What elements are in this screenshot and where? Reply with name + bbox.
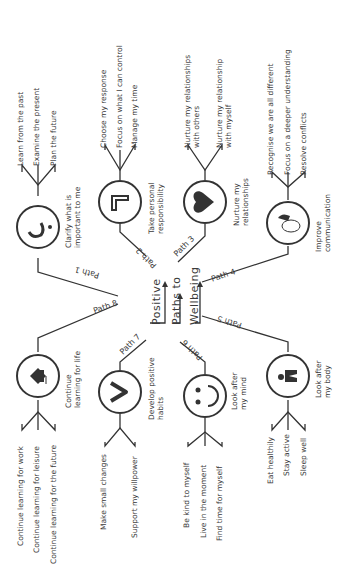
path6-item-1: Be kind to myself (183, 463, 191, 528)
path1-item-3: Plan the future (50, 110, 58, 166)
path6-item-2: Live in the moment (200, 465, 208, 538)
path8-item-1: Continue learning for work (17, 446, 25, 546)
path4-item-3: Resolve conflicts (300, 112, 308, 175)
path8-item-2: Continue learning for leisure (33, 446, 41, 553)
path5-item-1: Eat healthily (267, 437, 275, 484)
path2-item-2: Focus on what I can control (116, 45, 124, 148)
path5-name: Look aftermy body (314, 360, 332, 398)
path5-item-2: Stay active (283, 434, 291, 476)
path5-item-3: Sleep well (300, 438, 308, 476)
path7-item-1: Make small changes (100, 454, 108, 530)
path4-item-2: Focus on a deeper understanding (284, 49, 292, 175)
path2-name: Take personalresponsibility (147, 183, 165, 234)
path8-name: Continuelearning for life (64, 351, 82, 408)
path3-item-1: Nurture my relationshipswith others (183, 55, 201, 148)
path6-name: Look aftermy mind (230, 372, 248, 410)
path2-item-3: Manage my time (131, 85, 139, 148)
title-line-1: Positive (150, 279, 163, 325)
path2-circle (99, 181, 141, 223)
path7-circle (99, 371, 141, 413)
path1-name: Clarify what isimportant to me (64, 187, 82, 248)
wellbeing-diagram: Positive Paths to Wellbeing Path 1 Path … (0, 0, 353, 585)
path1-item-2: Examine the present (33, 88, 41, 166)
path6-circle (184, 375, 226, 417)
path7-name: Develop positivehabits (147, 357, 165, 420)
title-line-3: Wellbeing (188, 267, 201, 325)
path8-item-3: Continue learning for the future (50, 445, 58, 564)
path3-name: Nurture myrelationships (232, 178, 250, 226)
path3-item-2: Nurture my relationshipwith myself (215, 59, 233, 148)
path4-item-1: Recognise we are all different (267, 64, 275, 175)
path7-item-2: Support my willpower (131, 456, 139, 538)
path1-circle (17, 206, 59, 248)
path6-item-3: Find time for myself (216, 466, 224, 541)
path4-name: Improvecommunication (314, 194, 332, 252)
path1-item-1: Learn from the past (17, 92, 25, 166)
path2-item-1: Choose my response (100, 70, 108, 148)
title-line-2: Paths to (170, 277, 183, 325)
